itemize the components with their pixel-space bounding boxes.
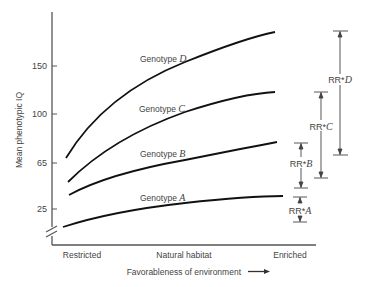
reaction-range-d-bracket <box>333 31 348 155</box>
reaction-range-a-label: RR*A <box>289 205 313 216</box>
y-ticks <box>52 66 57 209</box>
series-label-genotype-c: Genotype C <box>139 103 185 114</box>
series-line-genotype-d <box>66 32 275 158</box>
x-axis-title: Favorableness of environment <box>127 267 242 277</box>
series-label-genotype-b: Genotype B <box>140 148 185 159</box>
reaction-range-chart: 150 100 65 25 Mean phenotypic IQ Restric… <box>0 0 366 287</box>
y-tick-25: 25 <box>37 204 47 214</box>
y-tick-100: 100 <box>32 109 47 119</box>
reaction-range-d-label: RR*D <box>328 74 353 85</box>
reaction-range-c-bracket <box>314 92 328 178</box>
axis-break-icon <box>46 226 57 237</box>
series-label-genotype-a: Genotype A <box>140 192 186 203</box>
arrow-right-icon <box>248 269 270 274</box>
y-axis-title: Mean phenotypic IQ <box>14 92 24 168</box>
x-category-enriched: Enriched <box>273 250 307 260</box>
y-tick-65: 65 <box>37 158 47 168</box>
series-label-genotype-d: Genotype D <box>140 53 187 64</box>
y-tick-150: 150 <box>32 61 47 71</box>
reaction-range-c-label: RR*C <box>309 121 333 132</box>
x-category-natural-habitat: Natural habitat <box>156 250 212 260</box>
x-category-restricted: Restricted <box>63 250 102 260</box>
reaction-range-b-label: RR*B <box>290 158 313 169</box>
